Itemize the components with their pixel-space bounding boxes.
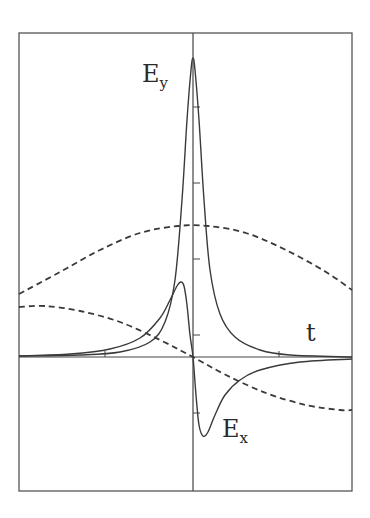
series-group <box>19 58 352 436</box>
ey-label: Ey <box>142 60 169 92</box>
chart: Ey Ex t <box>0 0 370 518</box>
axis-ticks <box>105 107 279 413</box>
series-e-x <box>19 282 352 436</box>
t-axis-label: t <box>306 319 316 347</box>
series-dashed-lower <box>19 306 352 411</box>
plot-frame <box>19 33 352 491</box>
series-e-y <box>19 58 352 357</box>
series-dashed-upper <box>19 225 352 294</box>
ex-label: Ex <box>222 415 249 447</box>
